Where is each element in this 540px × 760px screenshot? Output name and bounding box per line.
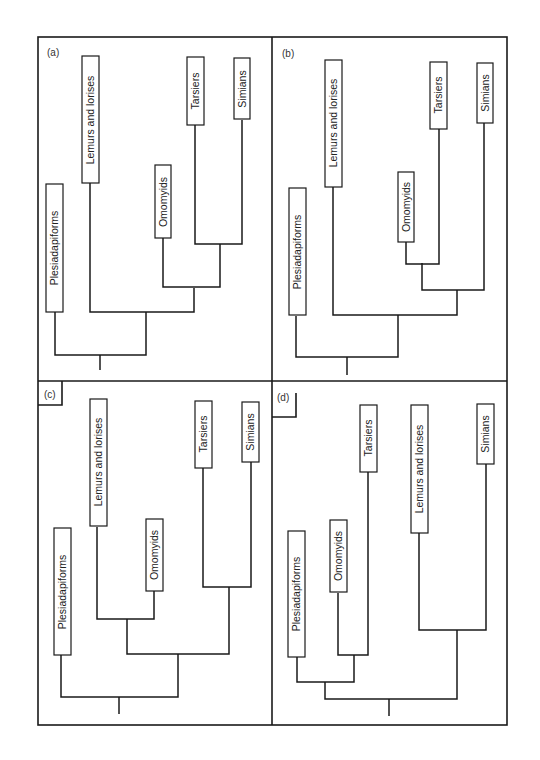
cladogram-figure: (a) Plesiadapiforms Lemurs and lorises O… (0, 0, 540, 760)
taxon-omomyids: Omomyids (146, 519, 163, 591)
svg-text:Lemurs and lorises: Lemurs and lorises (327, 79, 339, 168)
taxon-lemurs-and-lorises: Lemurs and lorises (325, 60, 342, 187)
taxon-lemurs-and-lorises: Lemurs and lorises (90, 399, 107, 526)
taxon-omomyids: Omomyids (398, 172, 414, 242)
taxon-lemurs-and-lorises: Lemurs and lorises (411, 405, 428, 533)
taxon-tarsiers: Tarsiers (195, 401, 212, 468)
taxon-simians: Simians (477, 63, 493, 123)
panel-label-c: (c) (44, 389, 56, 400)
svg-text:Omomyids: Omomyids (148, 530, 160, 580)
tree-d-branches (297, 464, 486, 716)
panel-label-d: (d) (277, 392, 289, 403)
taxon-tarsiers: Tarsiers (360, 405, 377, 472)
taxon-tarsiers: Tarsiers (187, 57, 204, 125)
svg-text:Omomyids: Omomyids (400, 182, 412, 232)
tree-b-branches (296, 123, 484, 375)
svg-text:Lemurs and lorises: Lemurs and lorises (84, 76, 96, 165)
panel-b: (b) Plesiadapiforms Lemurs and lorises O… (282, 48, 493, 375)
svg-text:Omomyids: Omomyids (157, 177, 169, 227)
svg-text:Tarsiers: Tarsiers (432, 77, 444, 114)
panel-d: (d) Plesiadapiforms Omomyids Tarsiers Le… (277, 392, 494, 716)
taxon-simians: Simians (242, 402, 259, 462)
svg-text:Tarsiers: Tarsiers (189, 73, 201, 110)
taxon-plesiadapiforms: Plesiadapiforms (46, 184, 63, 312)
taxon-simians: Simians (477, 404, 494, 464)
taxon-plesiadapiforms: Plesiadapiforms (54, 528, 71, 655)
taxon-lemurs-and-lorises: Lemurs and lorises (82, 56, 99, 183)
svg-text:Plesiadapiforms: Plesiadapiforms (56, 555, 68, 630)
svg-text:Simians: Simians (479, 415, 491, 452)
taxon-plesiadapiforms: Plesiadapiforms (289, 188, 306, 315)
taxon-simians: Simians (234, 58, 250, 119)
svg-text:Plesiadapiforms: Plesiadapiforms (290, 557, 302, 632)
svg-text:Simians: Simians (244, 413, 256, 450)
svg-text:Lemurs and lorises: Lemurs and lorises (413, 425, 425, 514)
figure-frame (38, 37, 507, 725)
svg-text:Tarsiers: Tarsiers (197, 416, 209, 453)
svg-text:Simians: Simians (479, 74, 491, 111)
svg-text:Plesiadapiforms: Plesiadapiforms (291, 215, 303, 290)
svg-text:Tarsiers: Tarsiers (362, 420, 374, 457)
taxon-plesiadapiforms: Plesiadapiforms (288, 531, 305, 657)
svg-text:Plesiadapiforms: Plesiadapiforms (48, 211, 60, 286)
panel-label-a: (a) (47, 47, 59, 58)
panel-label-b: (b) (282, 48, 294, 59)
taxon-omomyids: Omomyids (330, 520, 347, 592)
svg-text:Lemurs and lorises: Lemurs and lorises (92, 418, 104, 507)
svg-text:Simians: Simians (236, 70, 248, 107)
taxon-tarsiers: Tarsiers (430, 62, 447, 129)
taxon-omomyids: Omomyids (155, 165, 171, 238)
svg-text:Omomyids: Omomyids (332, 531, 344, 581)
panel-a: (a) Plesiadapiforms Lemurs and lorises O… (46, 47, 250, 370)
panel-c: (c) Plesiadapiforms Lemurs and lorises O… (44, 389, 259, 714)
